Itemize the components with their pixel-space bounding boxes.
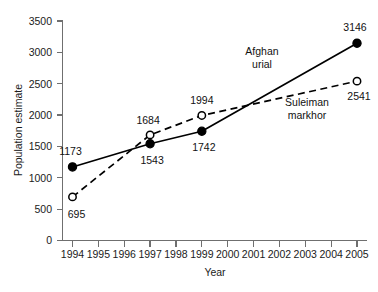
data-point-label: 1543 [140,154,164,166]
y-axis-ticks: 0500100015002000250030003500 [29,15,63,247]
chart-container: 0500100015002000250030003500 19941995199… [0,0,378,292]
x-tick-label: 1996 [113,248,137,260]
data-point-label: 1684 [136,114,160,126]
data-point-label: 1742 [192,141,216,153]
data-point-label: 695 [68,208,86,220]
y-tick-label: 3500 [29,15,53,27]
x-tick-label: 1997 [138,248,162,260]
x-tick-label: 2001 [242,248,266,260]
x-axis-ticks: 1994199519961997199819992000200120022003… [61,241,369,261]
series-annotation-afghan-urial: Afghan urial [245,45,278,70]
data-point-label: 3146 [343,21,367,33]
y-tick-label: 2500 [29,78,53,90]
data-point-afghan-urial-1997 [146,140,154,148]
data-point-label: 1173 [59,145,82,157]
x-tick-label: 1999 [190,248,214,260]
y-tick-label: 1500 [29,140,53,152]
y-tick-label: 1000 [29,172,53,184]
suleiman-markhor-label-line2: markhor [288,109,327,121]
data-point-suleiman-markhor-2005 [353,77,360,84]
data-point-label: 2541 [347,90,371,102]
data-point-afghan-urial-1994 [68,163,76,171]
x-tick-label: 1998 [164,248,188,260]
data-point-suleiman-markhor-1994 [69,193,76,200]
y-axis: 0500100015002000250030003500 [29,15,63,247]
afghan-urial-label-line2: urial [252,58,272,70]
x-tick-label: 1994 [61,248,85,260]
y-tick-label: 500 [34,203,52,215]
series-annotation-suleiman-markhor: Suleiman markhor [285,96,329,121]
x-tick-label: 2000 [216,248,240,260]
population-estimate-line-chart: 0500100015002000250030003500 19941995199… [0,0,378,292]
x-axis-title: Year [204,266,226,278]
y-tick-label: 3000 [29,46,53,58]
data-point-afghan-urial-1999 [198,127,206,135]
y-tick-label: 0 [46,234,52,246]
data-point-afghan-urial-2005 [353,39,361,47]
afghan-urial-label-line1: Afghan [245,45,278,57]
data-point-label: 1994 [190,94,214,106]
x-tick-label: 2003 [294,248,318,260]
x-axis: 1994199519961997199819992000200120022003… [61,241,369,261]
x-tick-label: 2004 [319,248,343,260]
suleiman-markhor-label-line1: Suleiman [285,96,329,108]
data-point-suleiman-markhor-1999 [198,112,205,119]
x-tick-label: 2002 [268,248,292,260]
y-axis-title: Population estimate [12,84,24,176]
data-point-suleiman-markhor-1997 [146,131,153,138]
x-tick-label: 1995 [87,248,111,260]
y-tick-label: 2000 [29,109,53,121]
x-tick-label: 2005 [345,248,369,260]
